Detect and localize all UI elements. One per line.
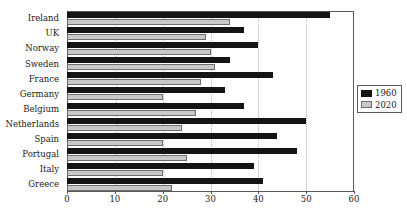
bar-group (67, 56, 354, 71)
bar-ireland-1960[interactable] (67, 12, 330, 18)
legend-swatch-1960 (361, 90, 372, 97)
bar-ireland-2020[interactable] (67, 19, 230, 25)
x-axis-tick-mark (354, 191, 355, 194)
chart-container: IrelandUKNorwaySwedenFranceGermanyBelgiu… (0, 0, 407, 217)
bar-group (67, 177, 354, 192)
x-axis-tick-mark (115, 191, 116, 194)
legend-item-1960[interactable]: 1960 (361, 89, 397, 98)
x-axis-tick-mark (67, 191, 68, 194)
x-axis-tick-label: 40 (253, 194, 264, 204)
bar-france-1960[interactable] (67, 72, 273, 78)
bar-belgium-1960[interactable] (67, 103, 244, 109)
x-axis-tick-mark (306, 191, 307, 194)
legend-swatch-2020 (361, 101, 372, 108)
bar-greece-2020[interactable] (67, 185, 172, 191)
bar-spain-1960[interactable] (67, 133, 277, 139)
x-axis-tick-label: 0 (64, 194, 69, 204)
bar-group (67, 11, 354, 26)
x-axis-tick-label: 10 (109, 194, 120, 204)
bar-netherlands-2020[interactable] (67, 125, 182, 131)
x-axis-tick-mark (163, 191, 164, 194)
y-axis-label: Italy (0, 162, 63, 177)
bar-uk-1960[interactable] (67, 27, 244, 33)
bar-group (67, 162, 354, 177)
bar-italy-2020[interactable] (67, 170, 163, 176)
x-axis-tick-mark (211, 191, 212, 194)
y-axis-label: Greece (0, 177, 63, 192)
bar-sweden-2020[interactable] (67, 64, 215, 70)
bar-group (67, 101, 354, 116)
x-axis-tick-label: 20 (157, 194, 168, 204)
y-axis-label: Sweden (0, 56, 63, 71)
legend-item-2020[interactable]: 2020 (361, 101, 397, 110)
y-axis-label: France (0, 71, 63, 86)
x-axis-tick-label: 30 (205, 194, 216, 204)
legend: 1960 2020 (357, 85, 402, 113)
bar-france-2020[interactable] (67, 79, 201, 85)
bar-portugal-1960[interactable] (67, 148, 297, 154)
bar-spain-2020[interactable] (67, 140, 163, 146)
bar-uk-2020[interactable] (67, 34, 206, 40)
bar-group (67, 26, 354, 41)
y-axis-label: Belgium (0, 101, 63, 116)
y-axis-label: UK (0, 26, 63, 41)
bar-group (67, 117, 354, 132)
bar-rows (67, 11, 354, 192)
x-axis-tick-label: 60 (349, 194, 360, 204)
y-axis-label: Spain (0, 132, 63, 147)
bar-group (67, 132, 354, 147)
legend-label-2020: 2020 (375, 101, 397, 110)
y-axis-label: Norway (0, 41, 63, 56)
bar-group (67, 147, 354, 162)
bar-netherlands-1960[interactable] (67, 118, 306, 124)
bar-portugal-2020[interactable] (67, 155, 187, 161)
bar-italy-1960[interactable] (67, 163, 254, 169)
y-axis-labels: IrelandUKNorwaySwedenFranceGermanyBelgiu… (0, 11, 63, 192)
x-axis-ticks: 0102030405060 (0, 194, 407, 208)
legend-label-1960: 1960 (375, 89, 397, 98)
bar-sweden-1960[interactable] (67, 57, 230, 63)
bar-group (67, 71, 354, 86)
bar-norway-2020[interactable] (67, 49, 211, 55)
y-axis-label: Netherlands (0, 117, 63, 132)
bar-germany-2020[interactable] (67, 94, 163, 100)
y-axis-label: Portugal (0, 147, 63, 162)
bar-group (67, 41, 354, 56)
bar-belgium-2020[interactable] (67, 110, 196, 116)
bar-norway-1960[interactable] (67, 42, 258, 48)
x-axis-tick-mark (258, 191, 259, 194)
bar-germany-1960[interactable] (67, 87, 225, 93)
x-axis-tick-label: 50 (301, 194, 312, 204)
y-axis-label: Ireland (0, 11, 63, 26)
bar-group (67, 86, 354, 101)
bar-greece-1960[interactable] (67, 178, 263, 184)
y-axis-label: Germany (0, 86, 63, 101)
